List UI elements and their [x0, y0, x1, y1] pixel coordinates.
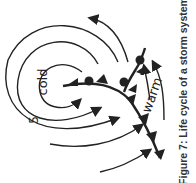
wind-arrow-icon	[90, 18, 128, 62]
wind-arrow-icon	[100, 150, 150, 172]
cold-label: cold	[35, 69, 50, 96]
figure-caption: Figure 7: Life cycle of a storm system	[177, 0, 189, 183]
stage-number: 5	[27, 116, 41, 124]
storm-diagram	[0, 0, 196, 183]
